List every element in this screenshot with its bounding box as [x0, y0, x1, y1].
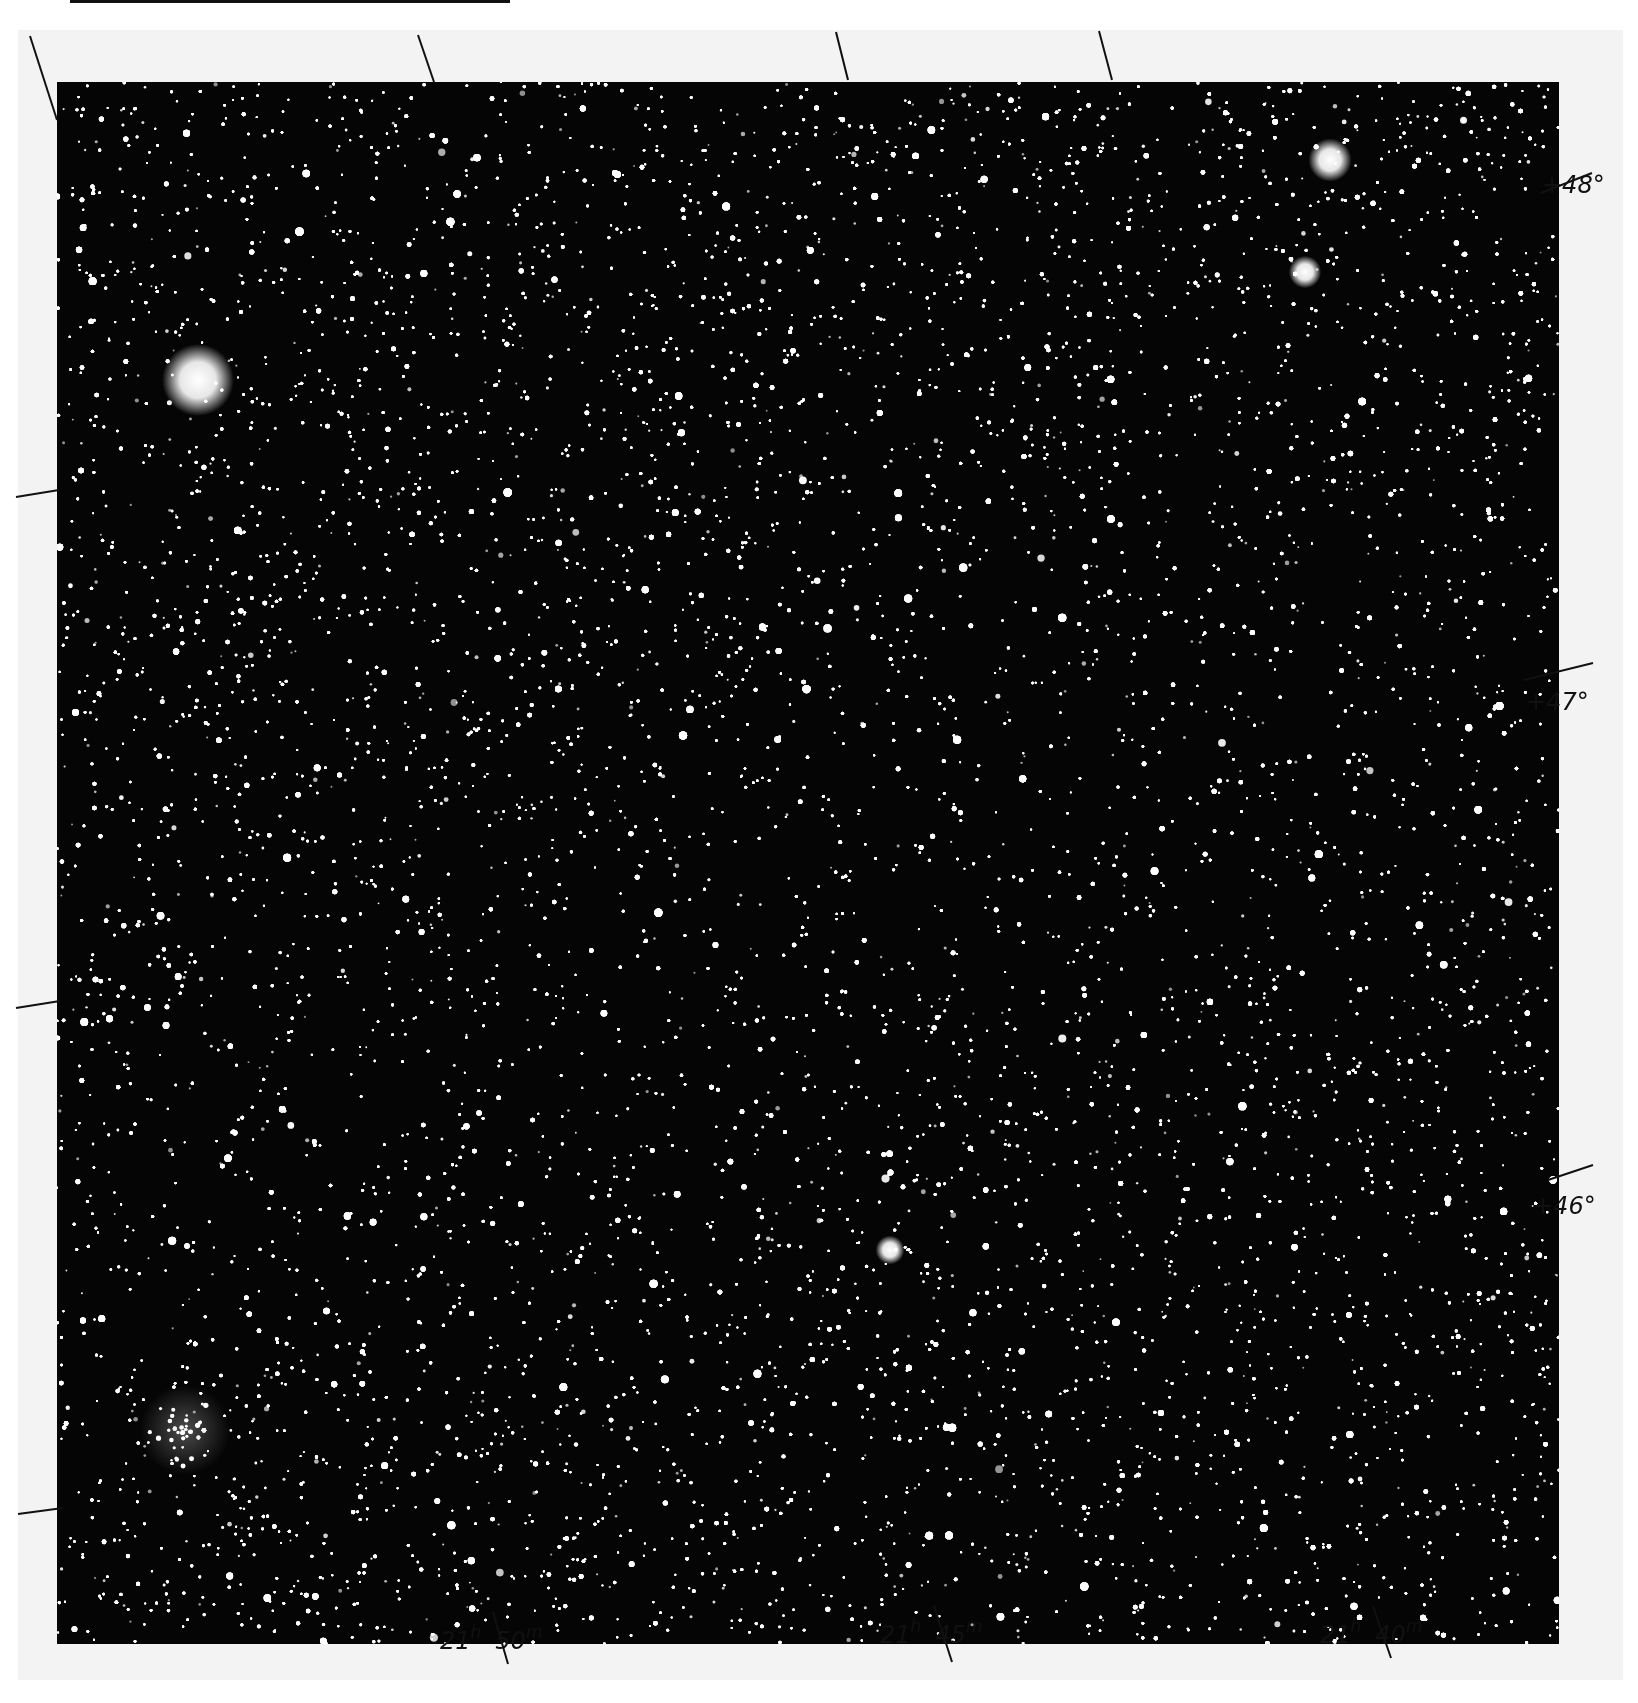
- ra-minutes: 50: [495, 1627, 526, 1655]
- dec-label-48: +48°: [1542, 173, 1605, 197]
- ra-minutes: 40: [1375, 1621, 1406, 1649]
- ra-minutes-unit: m: [1406, 1616, 1423, 1636]
- ra-minutes: 45: [935, 1621, 966, 1649]
- ra-hours-unit: h: [911, 1616, 922, 1636]
- star-field-plate[interactable]: [57, 82, 1559, 1644]
- dec-label-46: +46°: [1533, 1194, 1596, 1218]
- ra-label-21h45m: 21h45m: [880, 1620, 982, 1647]
- ra-hours: 21: [440, 1627, 471, 1655]
- star-field-canvas[interactable]: [57, 82, 1559, 1644]
- ra-hours-unit: h: [471, 1622, 482, 1642]
- ra-hours-unit: h: [1351, 1616, 1362, 1636]
- ra-minutes-unit: m: [526, 1622, 543, 1642]
- dec-label-47: +47°: [1526, 690, 1589, 714]
- ra-hours: 21: [1320, 1621, 1351, 1649]
- ra-hours: 21: [880, 1621, 911, 1649]
- ra-label-21h40m: 21h40m: [1320, 1620, 1422, 1647]
- ra-minutes-unit: m: [966, 1616, 983, 1636]
- ra-label-21h50m: 21h50m: [440, 1626, 542, 1653]
- top-rule: [70, 0, 510, 3]
